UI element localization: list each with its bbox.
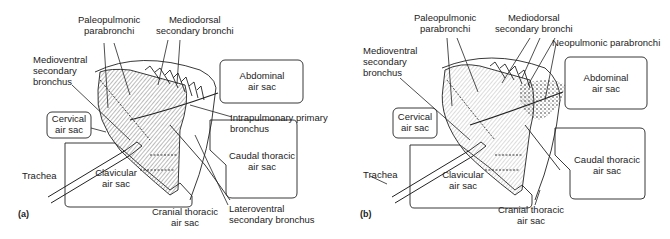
- label-line: secondary bronchus: [229, 214, 315, 225]
- label-line: Medioventral: [33, 54, 87, 65]
- label-line: air sac: [150, 217, 220, 228]
- label-medioventral-secondary-bronchus-a: Medioventral secondary bronchus: [33, 54, 87, 87]
- label-line: Lateroventral: [229, 203, 315, 214]
- label-paleopulmonic-parabronchi-a: Paleopulmonic parabronchi: [78, 14, 140, 36]
- label-mediodorsal-secondary-bronchi-a: Mediodorsal secondary bronchi: [156, 14, 234, 36]
- label-line: bronchus: [230, 123, 328, 134]
- label-clavicular-air-sac-a: Clavicular air sac: [90, 167, 142, 189]
- label-line: Caudal thoracic: [571, 154, 643, 165]
- label-line: bronchus: [363, 67, 417, 78]
- label-cranial-thoracic-air-sac-a: Cranial thoracic air sac: [150, 206, 220, 228]
- label-line: Cervical: [47, 113, 91, 124]
- panel-label-a: (a): [18, 209, 29, 219]
- label-line: bronchus: [33, 76, 87, 87]
- label-cranial-thoracic-air-sac-b: Cranial thoracic air sac: [495, 204, 567, 226]
- label-line: air sac: [47, 124, 91, 135]
- label-line: secondary bronchi: [495, 23, 573, 34]
- label-line: air sac: [222, 81, 302, 92]
- label-clavicular-air-sac-b: Clavicular air sac: [437, 169, 489, 191]
- label-line: Clavicular: [437, 169, 489, 180]
- label-abdominal-air-sac-b: Abdominal air sac: [565, 72, 647, 94]
- label-cervical-air-sac-b: Cervical air sac: [393, 111, 437, 133]
- label-line: secondary: [363, 56, 417, 67]
- label-line: Clavicular: [90, 167, 142, 178]
- label-line: air sac: [393, 122, 437, 133]
- label-caudal-thoracic-air-sac-a: Caudal thoracic air sac: [228, 150, 296, 172]
- label-trachea-a: Trachea: [22, 170, 57, 181]
- label-trachea-b: Trachea: [363, 169, 398, 180]
- panel-label-b: (b): [360, 209, 372, 219]
- label-line: air sac: [495, 215, 567, 226]
- label-intrapulmonary-primary-bronchus-a: Intrapulmonary primary bronchus: [230, 112, 328, 134]
- label-line: Cranial thoracic: [495, 204, 567, 215]
- label-line: parabronchi: [414, 23, 476, 34]
- label-medioventral-secondary-bronchus-b: Medioventral secondary bronchus: [363, 45, 417, 78]
- label-cervical-air-sac-a: Cervical air sac: [47, 113, 91, 135]
- label-line: Abdominal: [565, 72, 647, 83]
- label-line: Mediodorsal: [495, 12, 573, 23]
- label-line: Paleopulmonic: [414, 12, 476, 23]
- label-neopulmonic-parabronchi-b: Neopulmonic parabronchi: [552, 37, 660, 48]
- label-caudal-thoracic-air-sac-b: Caudal thoracic air sac: [571, 154, 643, 176]
- label-line: Abdominal: [222, 70, 302, 81]
- label-line: Intrapulmonary primary: [230, 112, 328, 123]
- label-line: air sac: [437, 180, 489, 191]
- label-line: Mediodorsal: [156, 14, 234, 25]
- label-line: air sac: [90, 178, 142, 189]
- label-mediodorsal-secondary-bronchi-b: Mediodorsal secondary bronchi: [495, 12, 573, 34]
- label-line: secondary: [33, 65, 87, 76]
- label-line: parabronchi: [78, 25, 140, 36]
- label-line: Medioventral: [363, 45, 417, 56]
- label-paleopulmonic-parabronchi-b: Paleopulmonic parabronchi: [414, 12, 476, 34]
- label-line: Caudal thoracic: [228, 150, 296, 161]
- label-line: air sac: [571, 165, 643, 176]
- label-line: Cranial thoracic: [150, 206, 220, 217]
- label-line: Cervical: [393, 111, 437, 122]
- label-line: air sac: [565, 83, 647, 94]
- label-lateroventral-secondary-bronchus-a: Lateroventral secondary bronchus: [229, 203, 315, 225]
- avian-lung-figure: Paleopulmonic parabronchi Mediodorsal se…: [0, 0, 670, 239]
- label-line: secondary bronchi: [156, 25, 234, 36]
- label-abdominal-air-sac-a: Abdominal air sac: [222, 70, 302, 92]
- label-line: Paleopulmonic: [78, 14, 140, 25]
- label-line: air sac: [228, 161, 296, 172]
